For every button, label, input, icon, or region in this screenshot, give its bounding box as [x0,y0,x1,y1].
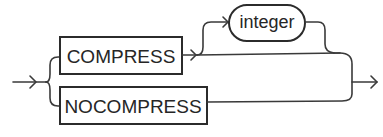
branch-lower [46,82,60,106]
compress-keyword: COMPRESS [60,37,182,74]
nocompress-label: NOCOMPRESS [64,96,201,117]
merge-line [207,53,352,102]
integer-out-line [305,22,334,53]
integer-label: integer [239,12,294,32]
integer-bypass-line [197,53,340,55]
integer-in-line [197,22,229,55]
compress-label: COMPRESS [67,46,176,67]
nocompress-keyword: NOCOMPRESS [60,87,207,124]
branch-upper [46,57,60,82]
syntax-diagram: COMPRESS NOCOMPRESS integer [0,0,383,137]
integer-parameter: integer [229,5,305,41]
